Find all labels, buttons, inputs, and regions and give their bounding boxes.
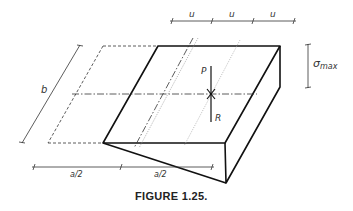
- slanted-centerline: [134, 38, 193, 148]
- wedge-block: [103, 46, 280, 183]
- label-u-1: u: [189, 9, 195, 19]
- figure-1-25-diagram: P R u u u σmax b a/2 a/2 FIGURE 1.25.: [0, 0, 353, 211]
- label-a-half-right: a/2: [154, 170, 167, 179]
- label-P: P: [201, 66, 207, 76]
- figure-caption: FIGURE 1.25.: [135, 190, 208, 202]
- label-a-half-left: a/2: [70, 170, 83, 179]
- label-u-3: u: [270, 9, 276, 19]
- label-u-2: u: [229, 9, 235, 19]
- label-R: R: [215, 113, 221, 123]
- label-b: b: [41, 84, 47, 95]
- a-half-dimension: [32, 164, 214, 170]
- phantom-outline: [48, 46, 158, 143]
- slanted-dotted-line-1: [139, 38, 198, 148]
- sigma-max-dimension: [305, 44, 311, 88]
- label-sigma-max: σmax: [313, 57, 338, 71]
